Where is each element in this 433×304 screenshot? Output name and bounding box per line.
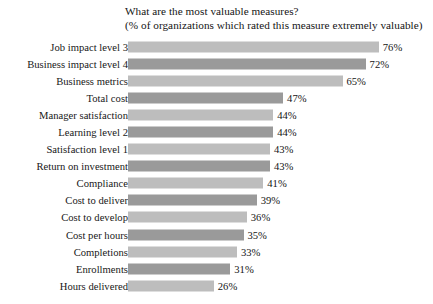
- bar: [128, 41, 379, 52]
- bar-fill: [128, 127, 273, 138]
- bar: [128, 263, 230, 274]
- bar: [128, 195, 257, 206]
- bar-fill: [128, 246, 237, 257]
- bar-category-label: Learning level 2: [0, 127, 128, 138]
- bar: [128, 92, 283, 103]
- bar-category-label: Hours delivered: [0, 280, 128, 291]
- bar-value-label: 47%: [287, 92, 306, 103]
- bar-fill: [128, 280, 214, 291]
- bar: [128, 161, 270, 172]
- bar-fill: [128, 212, 247, 223]
- bar-value-label: 43%: [274, 144, 293, 155]
- chart-title-block: What are the most valuable measures? (% …: [125, 5, 425, 32]
- bar-category-label: Business metrics: [0, 75, 128, 86]
- bar-fill: [128, 263, 230, 274]
- bar-row: Cost to develop36%: [0, 209, 433, 226]
- bar-fill: [128, 161, 270, 172]
- bar-row: Completions33%: [0, 243, 433, 260]
- bar-fill: [128, 195, 257, 206]
- bar-value-label: 33%: [241, 246, 260, 257]
- bar-category-label: Enrollments: [0, 263, 128, 274]
- bar-fill: [128, 178, 263, 189]
- bar-category-label: Return on investment: [0, 161, 128, 172]
- bar-row: Learning level 244%: [0, 123, 433, 140]
- bar-row: Business metrics65%: [0, 72, 433, 89]
- bar-fill: [128, 92, 283, 103]
- bar: [128, 246, 237, 257]
- bar: [128, 178, 263, 189]
- bar-category-label: Compliance: [0, 178, 128, 189]
- bar-row: Cost to deliver39%: [0, 192, 433, 209]
- bar-row: Enrollments31%: [0, 260, 433, 277]
- bar: [128, 75, 343, 86]
- bar-category-label: Job impact level 3: [0, 41, 128, 52]
- bar-row: Hours delivered26%: [0, 277, 433, 294]
- bar-category-label: Total cost: [0, 92, 128, 103]
- bar-category-label: Completions: [0, 246, 128, 257]
- bar-row: Business impact level 472%: [0, 55, 433, 72]
- bar: [128, 127, 273, 138]
- bar-category-label: Satisfaction level 1: [0, 144, 128, 155]
- bar-row: Total cost47%: [0, 89, 433, 106]
- bar-value-label: 36%: [251, 212, 270, 223]
- bar-fill: [128, 229, 244, 240]
- bar-fill: [128, 75, 343, 86]
- bar-value-label: 76%: [383, 41, 402, 52]
- bar-row: Compliance41%: [0, 175, 433, 192]
- plot-area: Job impact level 376%Business impact lev…: [0, 38, 433, 300]
- bar: [128, 280, 214, 291]
- bar-value-label: 44%: [277, 127, 296, 138]
- bar-category-label: Cost per hours: [0, 229, 128, 240]
- chart-title: What are the most valuable measures?: [125, 5, 425, 19]
- bar-category-label: Manager satisfaction: [0, 109, 128, 120]
- bar-row: Manager satisfaction44%: [0, 106, 433, 123]
- bar-category-label: Cost to develop: [0, 212, 128, 223]
- bar-value-label: 35%: [248, 229, 267, 240]
- bar: [128, 229, 244, 240]
- bar-row: Cost per hours35%: [0, 226, 433, 243]
- bar-value-label: 43%: [274, 161, 293, 172]
- bar-category-label: Business impact level 4: [0, 58, 128, 69]
- bar-fill: [128, 41, 379, 52]
- bar-value-label: 26%: [218, 280, 237, 291]
- bar: [128, 212, 247, 223]
- bar-value-label: 72%: [370, 58, 389, 69]
- bar-fill: [128, 144, 270, 155]
- chart-subtitle: (% of organizations which rated this mea…: [125, 19, 425, 33]
- bar: [128, 58, 366, 69]
- bar-value-label: 44%: [277, 109, 296, 120]
- bar-value-label: 65%: [347, 75, 366, 86]
- bar-row: Return on investment43%: [0, 158, 433, 175]
- bar-value-label: 31%: [234, 263, 253, 274]
- bar-value-label: 39%: [261, 195, 280, 206]
- bar-chart: What are the most valuable measures? (% …: [0, 0, 433, 304]
- bar: [128, 109, 273, 120]
- bar-value-label: 41%: [267, 178, 286, 189]
- bar: [128, 144, 270, 155]
- bar-row: Job impact level 376%: [0, 38, 433, 55]
- bar-fill: [128, 109, 273, 120]
- bar-category-label: Cost to deliver: [0, 195, 128, 206]
- bar-row: Satisfaction level 143%: [0, 141, 433, 158]
- bar-fill: [128, 58, 366, 69]
